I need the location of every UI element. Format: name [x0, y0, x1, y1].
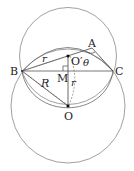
label-o: O [64, 110, 73, 123]
label-c: C [115, 65, 123, 78]
segment-ac [92, 48, 113, 71]
label-a: A [87, 37, 97, 50]
label-m: M [57, 72, 68, 85]
point-b [21, 70, 23, 72]
label-r-lower: r [71, 77, 77, 88]
point-o-prime [66, 54, 69, 57]
lens-upper-arc [22, 48, 113, 72]
label-b: B [10, 65, 18, 78]
right-angle-mark [63, 66, 68, 71]
label-o-prime: O′ [71, 55, 83, 68]
label-theta: θ [83, 57, 89, 68]
geometry-diagram: A B C O O′ M r r R θ [0, 0, 134, 171]
diagram-canvas: A B C O O′ M r r R θ [0, 0, 134, 171]
point-o [66, 104, 69, 107]
theta-angle-arc [86, 51, 95, 53]
label-R: R [40, 77, 49, 90]
